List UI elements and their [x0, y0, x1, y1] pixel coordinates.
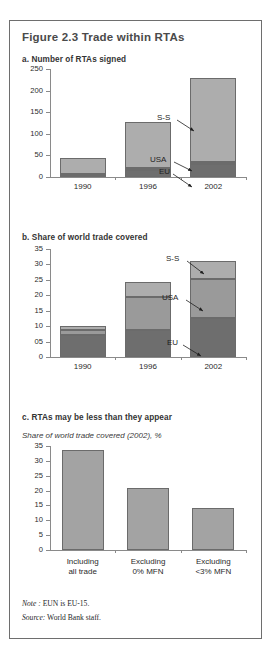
source-label: Source:	[22, 613, 45, 622]
x-tick-label-line: all trade	[50, 567, 115, 577]
x-tick	[246, 550, 247, 553]
y-tick-label: 30	[21, 457, 43, 465]
y-tick-label: 0	[21, 546, 43, 554]
note-text: EUN is EU-15.	[41, 599, 90, 608]
x-tick-label-line: Excluding	[181, 557, 246, 567]
y-tick-label: 20	[21, 487, 43, 495]
x-tick-label-line: 0% MFN	[115, 567, 180, 577]
x-tick-label-line: Including	[50, 557, 115, 567]
bar	[62, 450, 104, 550]
panel-c-title: c. RTAs may be less than they appear	[22, 413, 172, 422]
y-tick	[46, 535, 50, 536]
y-tick	[46, 446, 50, 447]
y-tick	[46, 461, 50, 462]
bar	[192, 508, 234, 550]
bar	[127, 488, 169, 550]
x-tick	[115, 550, 116, 553]
y-tick-label: 5	[21, 531, 43, 539]
figure-panel: Figure 2.3 Trade within RTAs a. Number o…	[9, 20, 262, 639]
note-line: Note : EUN is EU-15.	[22, 599, 89, 608]
y-tick	[46, 550, 50, 551]
panel-c-subtitle: Share of world trade covered (2002), %	[22, 431, 162, 440]
note-label: Note :	[22, 599, 41, 608]
y-tick	[46, 520, 50, 521]
chart-c-rtas-may-be-less-than-they-appear: 05101520253035Includingall tradeExcludin…	[50, 446, 246, 576]
source-text: World Bank staff.	[45, 613, 101, 622]
y-tick-label: 15	[21, 501, 43, 509]
y-tick-label: 10	[21, 516, 43, 524]
source-line: Source: World Bank staff.	[22, 613, 101, 622]
x-axis-line	[50, 550, 246, 551]
x-tick-label: Excluding0% MFN	[115, 557, 180, 576]
y-tick-label: 25	[21, 472, 43, 480]
y-tick-label: 35	[21, 442, 43, 450]
y-tick	[46, 505, 50, 506]
x-tick-label: Excluding<3% MFN	[181, 557, 246, 576]
y-tick	[46, 491, 50, 492]
x-tick-label-line: Excluding	[115, 557, 180, 567]
x-tick-label-line: <3% MFN	[181, 567, 246, 577]
x-tick-label: Includingall trade	[50, 557, 115, 576]
y-tick	[46, 476, 50, 477]
y-axis-line	[50, 446, 51, 550]
x-tick	[181, 550, 182, 553]
